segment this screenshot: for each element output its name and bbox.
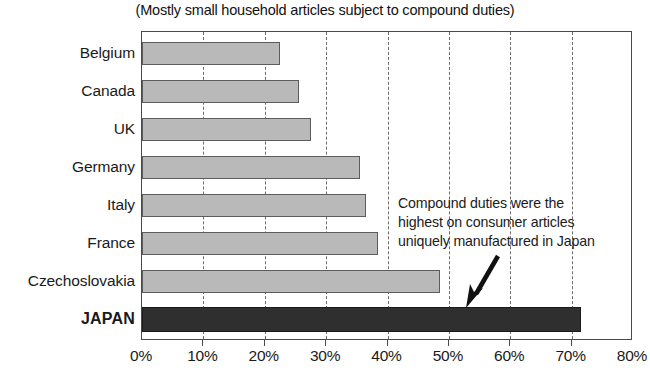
- bar-germany[interactable]: [142, 156, 360, 179]
- bar-france[interactable]: [142, 232, 378, 255]
- chart-subtitle: (Mostly small household articles subject…: [0, 2, 650, 18]
- x-axis-tick: [509, 340, 510, 346]
- x-axis-tick: [387, 340, 388, 346]
- x-axis-label-30pct: 30%: [310, 347, 340, 365]
- bar-japan[interactable]: [142, 307, 581, 332]
- y-axis-label-belgium: Belgium: [0, 45, 135, 61]
- x-axis-tick: [571, 340, 572, 346]
- x-axis-label-20pct: 20%: [249, 347, 279, 365]
- x-axis-label-50pct: 50%: [433, 347, 463, 365]
- bar-series: [142, 32, 631, 339]
- plot-area: [141, 31, 632, 340]
- annotation-line-1: Compound duties were the: [398, 194, 634, 213]
- x-axis-label-40pct: 40%: [371, 347, 401, 365]
- chart-canvas: (Mostly small household articles subject…: [0, 0, 650, 373]
- arrow-down-left-icon: [452, 252, 512, 312]
- y-axis-label-japan: JAPAN: [0, 311, 135, 327]
- x-axis-tick: [325, 340, 326, 346]
- annotation-line-3: uniquely manufactured in Japan: [398, 232, 634, 251]
- annotation-line-2: highest on consumer articles: [398, 213, 634, 232]
- y-axis-label-canada: Canada: [0, 83, 135, 99]
- x-axis-label-0pct: 0%: [130, 347, 152, 365]
- bar-czechoslovakia[interactable]: [142, 270, 440, 293]
- y-axis-labels: BelgiumCanadaUKGermanyItalyFranceCzechos…: [0, 31, 135, 340]
- y-axis-label-uk: UK: [0, 121, 135, 137]
- x-axis-tick: [202, 340, 203, 346]
- bar-uk[interactable]: [142, 118, 311, 141]
- bar-belgium[interactable]: [142, 42, 280, 65]
- x-axis-tick: [448, 340, 449, 346]
- x-axis-label-80pct: 80%: [617, 347, 647, 365]
- bar-canada[interactable]: [142, 80, 299, 103]
- x-axis-tick: [264, 340, 265, 346]
- x-axis-label-10pct: 10%: [187, 347, 217, 365]
- y-axis-label-czechoslovakia: Czechoslovakia: [0, 273, 135, 289]
- annotation-callout: Compound duties were the highest on cons…: [398, 194, 634, 251]
- x-axis-label-60pct: 60%: [494, 347, 524, 365]
- y-axis-label-germany: Germany: [0, 159, 135, 175]
- bar-italy[interactable]: [142, 194, 366, 217]
- y-axis-label-france: France: [0, 235, 135, 251]
- y-axis-label-italy: Italy: [0, 197, 135, 213]
- x-axis-label-70pct: 70%: [555, 347, 585, 365]
